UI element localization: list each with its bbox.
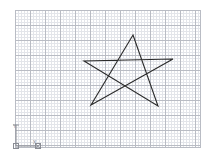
ucs-x-axis-label: X <box>33 140 36 145</box>
cad-drawing-window: Y X <box>0 0 215 161</box>
ucs-icon <box>10 120 58 152</box>
ucs-y-axis-label: Y <box>13 124 16 129</box>
